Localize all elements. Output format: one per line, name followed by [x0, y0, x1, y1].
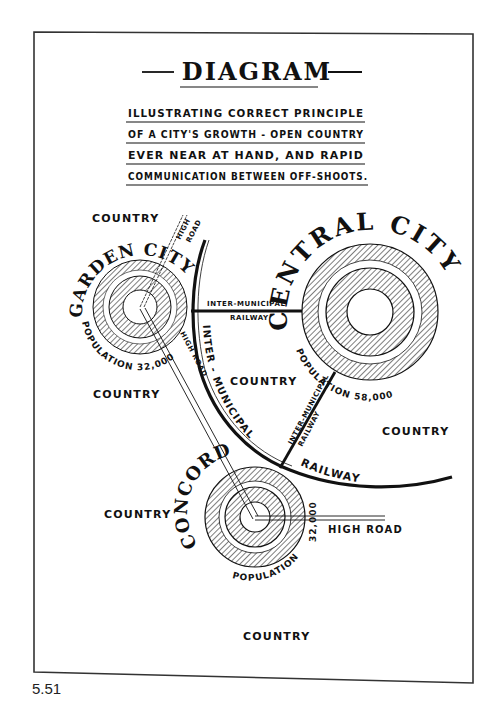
diagram-canvas: DIAGRAM ILLUSTRATING CORRECT PRINCIPLE O…: [0, 0, 503, 709]
subtitle-line: ILLUSTRATING CORRECT PRINCIPLE: [128, 107, 364, 119]
subtitle-line: EVER NEAR AT HAND, AND RAPID: [128, 149, 364, 161]
concord-population-value: 32,000: [308, 501, 318, 542]
country-label-center: COUNTRY: [230, 375, 297, 388]
country-label-left-lower: COUNTRY: [104, 508, 171, 521]
subtitle-line: OF A CITY'S GROWTH - OPEN COUNTRY: [128, 128, 364, 140]
rail-horizontal-label-1: INTER-MUNICIPAL: [207, 300, 286, 308]
high-road-east-label: HIGH ROAD: [328, 524, 403, 535]
concord-city: [205, 467, 305, 567]
central-city: [302, 244, 438, 380]
country-label-left-mid: COUNTRY: [93, 388, 160, 401]
subtitle-line: COMMUNICATION BETWEEN OFF-SHOOTS.: [128, 170, 368, 182]
figure-number: 5.51: [32, 680, 61, 697]
page-title: DIAGRAM: [182, 57, 332, 86]
subtitle-block: ILLUSTRATING CORRECT PRINCIPLE OF A CITY…: [126, 107, 368, 185]
title-block: DIAGRAM: [142, 57, 362, 87]
country-label-top-left: COUNTRY: [92, 212, 159, 225]
rail-horizontal-label-2: RAILWAY: [230, 314, 269, 322]
country-label-right: COUNTRY: [382, 425, 449, 438]
country-label-bottom: COUNTRY: [243, 630, 310, 643]
